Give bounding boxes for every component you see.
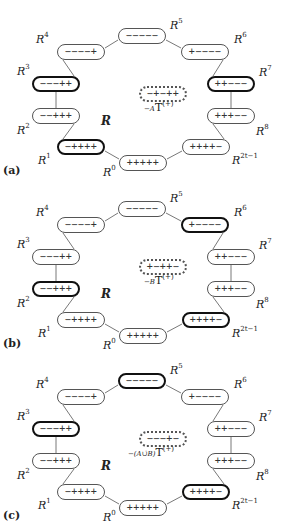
node-r2t1: ++++− <box>182 312 230 328</box>
edge-R0-R1 <box>105 324 119 332</box>
edge-R5-R6 <box>166 40 181 48</box>
node-r3: −−−++ <box>32 76 80 92</box>
node-r2t1: ++++− <box>182 139 230 155</box>
node-label-r0: R0 <box>103 511 116 524</box>
node-r0: +++++ <box>119 500 167 516</box>
node-r7: ++−−− <box>207 421 255 437</box>
node-label-r1: R1 <box>38 327 51 340</box>
node-r8: +++−− <box>207 281 255 297</box>
node-r3: −−−++ <box>32 249 80 265</box>
target-label-superscript: (+) <box>162 273 173 281</box>
node-label-r8: R8 <box>256 470 269 483</box>
edge-R5-R6 <box>166 385 181 393</box>
node-label-r4: R4 <box>36 33 49 46</box>
node-label-sup: 1 <box>46 497 50 505</box>
region-label: R <box>101 114 111 128</box>
target-label-subscript: −(A∪̇B) <box>128 450 155 458</box>
node-label-r4: R4 <box>36 378 49 391</box>
edge-R1-R2 <box>63 297 74 312</box>
edge-R8-R2t1 <box>213 469 224 484</box>
node-r2t1: ++++− <box>182 484 230 500</box>
panel-b: −−−−−R5−−−−+R4+−−−−R6−−−++R3++−−−R7−−+++… <box>0 173 284 346</box>
node-r3: −−−++ <box>32 421 80 437</box>
node-r7: ++−−− <box>207 249 255 265</box>
node-label-r5: R5 <box>170 19 183 32</box>
node-label-sup: 6 <box>242 31 246 39</box>
node-label-r6: R6 <box>234 206 247 219</box>
node-label-sup: 6 <box>242 376 246 384</box>
panel-label: (c) <box>3 509 20 522</box>
node-label-sup: 3 <box>25 63 29 71</box>
node-r0: +++++ <box>119 155 167 171</box>
edge-R6-R7 <box>213 405 223 421</box>
node-r4: −−−−+ <box>57 217 105 233</box>
target-label-subscript: −B <box>144 278 155 286</box>
node-r1: −++++ <box>57 484 105 500</box>
node-label-r1: R1 <box>38 154 51 167</box>
edge-R0-R1 <box>105 151 119 159</box>
node-label-r2t1: R2t−1 <box>232 327 258 340</box>
node-label-sup: 2t−1 <box>240 152 258 160</box>
node-r5: −−−−− <box>118 373 166 389</box>
node-label-r5: R5 <box>170 192 183 205</box>
node-label-sup: 6 <box>242 204 246 212</box>
region-label: R <box>101 287 111 301</box>
node-r8: +++−− <box>207 453 255 469</box>
target-label-symbol: T <box>155 446 162 459</box>
node-label-r5: R5 <box>170 364 183 377</box>
node-label-sup: 4 <box>44 204 48 212</box>
node-label-sup: 4 <box>44 376 48 384</box>
node-label-r2: R2 <box>17 297 30 310</box>
node-label-r7: R7 <box>259 411 272 424</box>
node-label-sup: 7 <box>267 64 271 72</box>
edge-R4-R5 <box>105 385 118 393</box>
node-label-r4: R4 <box>36 206 49 219</box>
edge-R3-R4 <box>63 60 74 76</box>
node-r4: −−−−+ <box>57 389 105 405</box>
node-label-sup: 0 <box>111 509 115 517</box>
node-label-sup: 8 <box>264 296 268 304</box>
node-label-r8: R8 <box>256 298 269 311</box>
node-label-r3: R3 <box>17 410 30 423</box>
node-r1: −++++ <box>57 312 105 328</box>
edge-R2t1-R0 <box>167 324 182 332</box>
node-label-r2: R2 <box>17 124 30 137</box>
node-r8: +++−− <box>207 108 255 124</box>
node-label-sup: 8 <box>264 123 268 131</box>
node-r6: +−−−− <box>181 217 229 233</box>
node-label-r3: R3 <box>17 238 30 251</box>
node-label-sup: 0 <box>111 164 115 172</box>
target-label: −AT(+) <box>144 101 174 114</box>
node-label-sup: 7 <box>267 409 271 417</box>
target-label: −BT(+) <box>144 274 174 287</box>
edge-R8-R2t1 <box>213 297 224 312</box>
node-label-sup: 5 <box>178 17 182 25</box>
edge-R3-R4 <box>63 233 74 249</box>
region-label: R <box>101 459 111 473</box>
node-label-r7: R7 <box>259 66 272 79</box>
panel-a: −−−−−R5−−−−+R4+−−−−R6−−−++R3++−−−R7−−+++… <box>0 0 284 173</box>
node-r2: −−+++ <box>32 108 80 124</box>
node-label-sup: 7 <box>267 237 271 245</box>
edge-R1-R2 <box>63 124 74 139</box>
node-label-r3: R3 <box>17 65 30 78</box>
node-label-sup: 2 <box>25 295 29 303</box>
node-r2: −−+++ <box>32 453 80 469</box>
node-label-sup: 1 <box>46 152 50 160</box>
node-label-r2: R2 <box>17 469 30 482</box>
target-label-superscript: (+) <box>162 100 173 108</box>
edge-R4-R5 <box>105 40 118 48</box>
edge-R0-R1 <box>105 496 119 504</box>
panel-c: −−−−−R5−−−−+R4+−−−−R6−−−++R3++−−−R7−−+++… <box>0 345 284 518</box>
node-r5: −−−−− <box>118 28 166 44</box>
node-r0: +++++ <box>119 328 167 344</box>
edge-R8-R2t1 <box>213 124 224 139</box>
node-r6: +−−−− <box>181 44 229 60</box>
node-label-sup: 2 <box>25 122 29 130</box>
node-label-sup: 3 <box>25 236 29 244</box>
edge-R2t1-R0 <box>167 496 182 504</box>
node-label-sup: 3 <box>25 408 29 416</box>
node-label-sup: 8 <box>264 468 268 476</box>
target-label: −(A∪̇B)T(+) <box>128 446 174 459</box>
target-label-superscript: (+) <box>163 445 174 453</box>
